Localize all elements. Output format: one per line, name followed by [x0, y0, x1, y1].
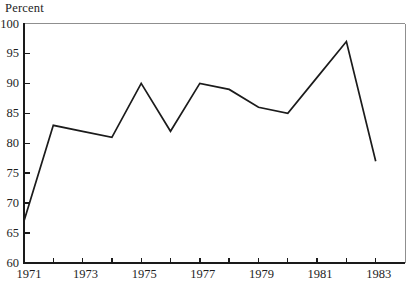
- y-axis-tick-label: 90: [7, 76, 20, 90]
- chart-canvas: 6065707580859095100197119731975197719791…: [0, 0, 411, 285]
- x-axis-tick-label: 1977: [190, 267, 215, 281]
- x-axis-tick-label: 1981: [308, 267, 333, 281]
- x-axis-tick-label: 1979: [249, 267, 274, 281]
- y-axis-tick-label: 70: [7, 196, 20, 210]
- y-axis-tick-label: 95: [7, 46, 20, 60]
- x-axis-tick-label: 1975: [132, 267, 157, 281]
- line-chart-figure: Percent 60657075808590951001971197319751…: [0, 0, 411, 285]
- y-axis-tick-label: 80: [7, 136, 20, 150]
- data-line: [24, 42, 376, 222]
- y-axis-tick-label: 85: [7, 106, 20, 120]
- x-axis-tick-label: 1983: [366, 267, 391, 281]
- x-axis-tick-label: 1973: [73, 267, 98, 281]
- y-axis-tick-label: 65: [7, 226, 20, 240]
- y-axis-unit-label: Percent: [5, 1, 44, 16]
- y-axis-tick-label: 75: [7, 166, 20, 180]
- x-axis-tick-label: 1971: [17, 267, 42, 281]
- y-axis-tick-label: 100: [0, 17, 19, 31]
